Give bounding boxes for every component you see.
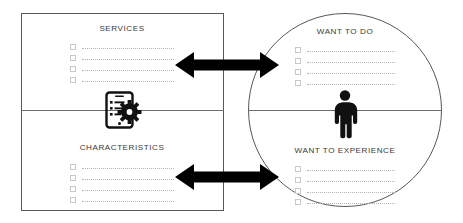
write-in-line[interactable] (82, 80, 174, 82)
list-item[interactable] (70, 161, 174, 172)
list-item[interactable] (295, 163, 395, 174)
want-to-do-checklist (295, 44, 395, 88)
checkbox[interactable] (70, 55, 76, 61)
checkbox[interactable] (295, 199, 301, 205)
list-item[interactable] (295, 174, 395, 185)
checkbox[interactable] (70, 197, 76, 203)
write-in-line[interactable] (82, 167, 174, 169)
write-in-line[interactable] (82, 200, 174, 202)
list-item[interactable] (70, 194, 174, 205)
checkbox[interactable] (295, 47, 301, 53)
list-item[interactable] (295, 55, 395, 66)
diagram-canvas: SERVICES CHARACTERISTICS (0, 0, 463, 223)
characteristics-heading: CHARACTERISTICS (80, 143, 165, 152)
services-checklist (70, 41, 174, 85)
write-in-line[interactable] (82, 69, 174, 71)
write-in-line[interactable] (82, 47, 174, 49)
list-item[interactable] (295, 66, 395, 77)
write-in-line[interactable] (82, 178, 174, 180)
want-to-do-heading: WANT TO DO (317, 27, 373, 36)
characteristics-checklist (70, 161, 174, 205)
list-item[interactable] (70, 172, 174, 183)
write-in-line[interactable] (307, 50, 395, 52)
list-item[interactable] (295, 44, 395, 55)
want-to-experience-heading: WANT TO EXPERIENCE (295, 146, 396, 155)
checkbox[interactable] (70, 44, 76, 50)
list-item[interactable] (70, 52, 174, 63)
write-in-line[interactable] (307, 202, 395, 204)
person-icon (335, 90, 357, 138)
list-item[interactable] (70, 63, 174, 74)
checkbox[interactable] (70, 66, 76, 72)
checkbox[interactable] (70, 175, 76, 181)
checkbox[interactable] (295, 80, 301, 86)
bottom-connector-arrow (175, 164, 279, 190)
checkbox[interactable] (70, 77, 76, 83)
write-in-line[interactable] (307, 61, 395, 63)
list-item[interactable] (70, 74, 174, 85)
list-item[interactable] (295, 196, 395, 207)
top-connector-arrow (175, 52, 279, 78)
write-in-line[interactable] (307, 180, 395, 182)
write-in-line[interactable] (307, 83, 395, 85)
want-to-experience-checklist (295, 163, 395, 207)
services-heading: SERVICES (99, 24, 144, 33)
write-in-line[interactable] (307, 169, 395, 171)
list-item[interactable] (295, 185, 395, 196)
list-item[interactable] (295, 77, 395, 88)
checkbox[interactable] (295, 69, 301, 75)
checkbox[interactable] (70, 186, 76, 192)
write-in-line[interactable] (307, 191, 395, 193)
list-item[interactable] (70, 183, 174, 194)
checkbox[interactable] (295, 188, 301, 194)
list-item[interactable] (70, 41, 174, 52)
checkbox[interactable] (295, 58, 301, 64)
checkbox[interactable] (70, 164, 76, 170)
checkbox[interactable] (295, 177, 301, 183)
write-in-line[interactable] (82, 58, 174, 60)
write-in-line[interactable] (82, 189, 174, 191)
checkbox[interactable] (295, 166, 301, 172)
write-in-line[interactable] (307, 72, 395, 74)
